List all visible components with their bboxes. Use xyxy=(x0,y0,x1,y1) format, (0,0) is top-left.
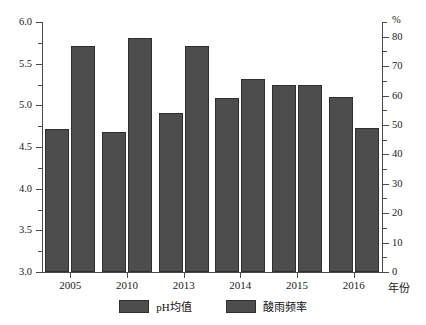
right-axis-tick-label-40: 40 xyxy=(392,149,403,160)
right-axis-unit-label: % xyxy=(392,14,401,25)
right-axis-tick-label-20: 20 xyxy=(392,208,403,219)
bar-frequency-2013 xyxy=(185,46,209,272)
bar-ph-2015 xyxy=(272,85,296,273)
x-axis-tick-2013 xyxy=(184,273,185,278)
bar-ph-2013 xyxy=(159,113,183,272)
right-axis-tick-label-70: 70 xyxy=(392,61,403,72)
right-axis-minor-tick xyxy=(383,110,387,111)
right-axis-tick-label-80: 80 xyxy=(392,32,403,43)
left-axis-tick-label-3.0: 3.0 xyxy=(19,267,32,278)
right-axis-tick-label-60: 60 xyxy=(392,91,403,102)
x-axis-tick-2005 xyxy=(70,273,71,278)
legend-swatch-ph xyxy=(119,300,149,313)
left-axis-tick-label-4.5: 4.5 xyxy=(19,142,32,153)
x-axis-tick-2014 xyxy=(240,273,241,278)
x-axis-title: 年份 xyxy=(388,279,410,295)
left-axis-tick-label-6.0: 6.0 xyxy=(19,17,32,28)
right-axis-minor-tick xyxy=(383,228,387,229)
left-axis-tick-label-3.5: 3.5 xyxy=(19,225,32,236)
right-axis-tick-80 xyxy=(383,37,389,38)
bar-ph-2010 xyxy=(102,132,126,272)
x-axis-tick-2010 xyxy=(127,273,128,278)
x-axis-tick-label-2015: 2015 xyxy=(267,280,327,291)
left-axis-tick-label-4.0: 4.0 xyxy=(19,184,32,195)
right-axis-minor-tick xyxy=(383,198,387,199)
legend-label-ph: pH均值 xyxy=(156,298,191,314)
right-axis-tick-0 xyxy=(383,272,389,273)
right-axis-tick-label-30: 30 xyxy=(392,179,403,190)
bar-frequency-2014 xyxy=(241,79,265,272)
right-axis-tick-60 xyxy=(383,96,389,97)
x-axis-line xyxy=(42,272,383,273)
right-axis-minor-tick xyxy=(383,257,387,258)
right-axis-minor-tick xyxy=(383,169,387,170)
left-axis-tick-label-5.5: 5.5 xyxy=(19,59,32,70)
chart-legend: pH均值 酸雨频率 xyxy=(0,298,426,314)
x-axis-tick-label-2005: 2005 xyxy=(40,280,100,291)
legend-item-ph: pH均值 xyxy=(119,298,191,314)
right-axis-tick-20 xyxy=(383,213,389,214)
left-axis-tick-label-5.0: 5.0 xyxy=(19,100,32,111)
left-axis-tick-3.0 xyxy=(36,272,42,273)
right-axis-tick-50 xyxy=(383,125,389,126)
x-axis-tick-2016 xyxy=(354,273,355,278)
bar-frequency-2016 xyxy=(355,128,379,272)
right-axis-tick-label-10: 10 xyxy=(392,238,403,249)
bar-frequency-2015 xyxy=(298,85,322,272)
right-axis-tick-10 xyxy=(383,243,389,244)
right-axis-minor-tick xyxy=(383,51,387,52)
right-axis-tick-40 xyxy=(383,154,389,155)
right-axis-line xyxy=(382,22,383,272)
right-axis-tick-70 xyxy=(383,66,389,67)
legend-label-frequency: 酸雨频率 xyxy=(263,298,307,314)
x-axis-tick-label-2014: 2014 xyxy=(210,280,270,291)
bar-ph-2016 xyxy=(329,97,353,272)
bar-ph-2014 xyxy=(215,98,239,272)
bar-ph-2005 xyxy=(45,129,69,272)
right-axis-minor-tick xyxy=(383,140,387,141)
x-axis-tick-label-2010: 2010 xyxy=(97,280,157,291)
bar-frequency-2005 xyxy=(71,46,95,272)
right-axis-minor-tick xyxy=(383,22,387,23)
x-axis-tick-label-2016: 2016 xyxy=(324,280,384,291)
plot-area xyxy=(42,22,382,272)
legend-item-frequency: 酸雨频率 xyxy=(226,298,307,314)
right-axis-tick-30 xyxy=(383,184,389,185)
right-axis-tick-label-50: 50 xyxy=(392,120,403,131)
right-axis-tick-label-0: 0 xyxy=(392,267,397,278)
x-axis-tick-2015 xyxy=(297,273,298,278)
bar-frequency-2010 xyxy=(128,38,152,272)
acid-rain-bar-chart: 3.03.54.04.55.05.56.00102030405060708020… xyxy=(0,0,426,325)
x-axis-tick-label-2013: 2013 xyxy=(154,280,214,291)
right-axis-minor-tick xyxy=(383,81,387,82)
legend-swatch-frequency xyxy=(226,300,256,313)
